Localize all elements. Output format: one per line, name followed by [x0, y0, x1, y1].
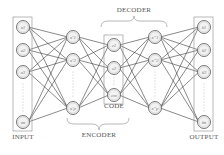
ellipsis-dot [23, 108, 24, 109]
node-label: x''1 [151, 35, 159, 40]
edge [119, 37, 150, 68]
decoder-label: DECODER [117, 6, 151, 14]
node-label: c2 [112, 66, 117, 71]
ellipsis-dot [204, 102, 205, 103]
input-node-x1: x1 [17, 21, 30, 34]
ellipsis-dot [155, 81, 156, 82]
ellipsis-dot [23, 93, 24, 94]
ellipsis-dot [23, 90, 24, 91]
ellipsis-dot [204, 111, 205, 112]
ellipsis-dot [23, 84, 24, 85]
decoder-brace [101, 16, 167, 27]
ellipsis-dot [73, 84, 74, 85]
edge [28, 60, 68, 122]
decoder-hidden-node-x''1: x''1 [149, 31, 162, 44]
ellipsis-dot [73, 93, 74, 94]
ellipsis-dot [23, 87, 24, 88]
ellipsis-dot [155, 72, 156, 73]
ellipsis-dot [73, 72, 74, 73]
encoder-hidden-node-x'2: x'2 [67, 54, 80, 67]
decoder-hidden-node-x''2: x''2 [149, 54, 162, 67]
decoder-hidden-node-x''p: x''p [149, 102, 162, 115]
node-label: x1 [20, 25, 26, 30]
node-label: x'p [69, 106, 76, 111]
edge [160, 60, 199, 122]
ellipsis-dot [155, 84, 156, 85]
encoder-brace [67, 118, 129, 130]
node-label: x̂n [201, 120, 207, 125]
node-label: x''2 [151, 58, 159, 63]
ellipsis-dot [73, 75, 74, 76]
ellipsis-dot [204, 90, 205, 91]
edge [28, 72, 68, 108]
output-node-x̂3: x̂3 [198, 66, 211, 79]
output-node-x̂n: x̂n [198, 116, 211, 129]
edge [119, 37, 150, 95]
edge [119, 45, 150, 108]
input-node-x2: x2 [17, 44, 30, 57]
ellipsis-dot [73, 96, 74, 97]
ellipsis-dot [73, 78, 74, 79]
ellipsis-dot [155, 90, 156, 91]
code-node-c2: c2 [108, 62, 121, 75]
node-label: c1 [112, 43, 117, 48]
node-label: x̂1 [201, 25, 207, 30]
edge [28, 37, 68, 122]
edge [160, 60, 199, 72]
encoder-label: ENCODER [82, 131, 116, 139]
node-label: cm [111, 93, 117, 98]
edge [28, 60, 68, 72]
ellipsis-dot [23, 99, 24, 100]
ellipsis-dot [204, 87, 205, 88]
ellipsis-dot [204, 108, 205, 109]
node-label: x''p [151, 106, 159, 111]
ellipsis-dot [23, 111, 24, 112]
edge [160, 37, 199, 72]
ellipsis-dot [204, 96, 205, 97]
ellipsis-dot [23, 105, 24, 106]
ellipsis-dot [204, 93, 205, 94]
input-label: INPUT [12, 133, 34, 141]
neuron-nodes: x1x2x3xnx'1x'2x'pc1c2cmx''1x''2x''px̂1x̂… [17, 21, 211, 129]
edge [28, 37, 68, 72]
code-node-cm: cm [108, 89, 121, 102]
ellipsis-dot [155, 75, 156, 76]
edge [119, 37, 150, 45]
node-label: x'1 [69, 35, 76, 40]
node-label: x3 [20, 70, 26, 75]
ellipsis-dot [73, 87, 74, 88]
ellipsis-dot [155, 93, 156, 94]
output-label: OUTPUT [190, 133, 219, 141]
ellipsis-dot [114, 78, 115, 79]
ellipsis-dot [155, 87, 156, 88]
ellipsis-dot [114, 81, 115, 82]
ellipsis-dot [155, 96, 156, 97]
ellipsis-dot [204, 99, 205, 100]
node-label: x̂2 [201, 48, 207, 53]
ellipsis-dot [204, 105, 205, 106]
encoder-hidden-node-x'p: x'p [67, 102, 80, 115]
code-node-c1: c1 [108, 39, 121, 52]
ellipsis-dot [23, 96, 24, 97]
edge [119, 60, 150, 95]
node-label: x̂3 [201, 70, 207, 75]
edge [119, 60, 150, 68]
node-label: xn [20, 120, 26, 125]
output-node-x̂2: x̂2 [198, 44, 211, 57]
ellipsis-dot [114, 84, 115, 85]
output-node-x̂1: x̂1 [198, 21, 211, 34]
ellipsis-dot [204, 84, 205, 85]
ellipsis-dot [73, 81, 74, 82]
encoder-hidden-node-x'1: x'1 [67, 31, 80, 44]
input-node-x3: x3 [17, 66, 30, 79]
edge [160, 108, 199, 122]
edge [28, 108, 68, 122]
code-label: CODE [104, 102, 124, 110]
ellipsis-dot [23, 102, 24, 103]
edge [160, 72, 199, 108]
input-node-xn: xn [17, 116, 30, 129]
ellipsis-dot [155, 78, 156, 79]
ellipsis-dot [73, 90, 74, 91]
node-label: x2 [20, 48, 26, 53]
node-label: x'2 [69, 58, 76, 63]
